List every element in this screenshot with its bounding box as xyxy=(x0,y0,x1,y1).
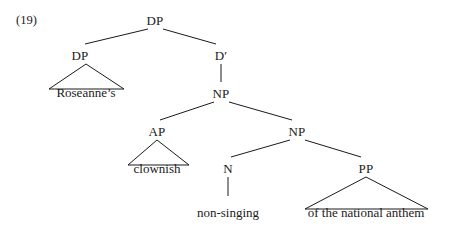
terminal-label-clownish: clownish xyxy=(134,162,181,175)
node-label-dp-root: DP xyxy=(146,14,163,27)
branch-np-lower-to-pp xyxy=(305,140,361,157)
syntax-tree-diagram: (19) DPDPD′NPAPNPNPP Roseanne’sclownishn… xyxy=(0,0,451,234)
node-label-dp-spec: DP xyxy=(71,49,88,62)
branch-np-upper-to-ap xyxy=(160,102,214,120)
branch-np-upper-to-np-lower xyxy=(229,102,292,120)
example-number: (19) xyxy=(16,14,37,27)
node-label-np-upper: NP xyxy=(212,87,229,100)
node-label-n-head: N xyxy=(223,162,233,175)
node-label-np-lower: NP xyxy=(288,125,305,138)
branch-np-lower-to-n xyxy=(231,140,290,157)
terminal-label-anthem: of the national anthem xyxy=(308,206,425,219)
node-label-pp: PP xyxy=(359,162,374,175)
node-label-ap: AP xyxy=(148,125,165,138)
node-label-d-bar: D′ xyxy=(215,49,228,62)
terminal-label-non-singing: non-singing xyxy=(197,206,259,219)
branch-dp-root-to-dp-spec xyxy=(85,29,148,44)
tree-branch-lines xyxy=(0,0,451,234)
terminal-label-roseannes: Roseanne’s xyxy=(56,86,115,99)
branch-dp-root-to-d-bar xyxy=(163,29,216,44)
